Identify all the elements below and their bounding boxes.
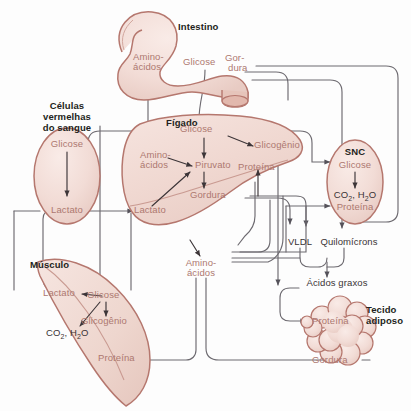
organ-musculo bbox=[38, 259, 150, 406]
organ-figado bbox=[122, 114, 302, 224]
organ-tecido-adiposo bbox=[301, 296, 376, 365]
organ-intestino bbox=[118, 12, 248, 107]
diagram-artwork bbox=[0, 0, 411, 411]
metabolism-diagram: Intestino Amino- ácidos Glicose Gor- dur… bbox=[0, 0, 411, 411]
